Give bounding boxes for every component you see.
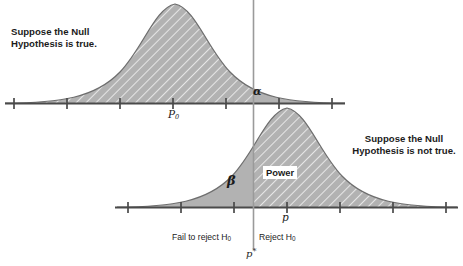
alternative-mean-label: p	[282, 211, 289, 223]
null-false-annotation: Suppose the Null Hypothesis is not true.	[350, 133, 458, 156]
null-true-line2: Hypothesis is true.	[11, 38, 97, 49]
null-curve-hatched-area	[5, 4, 345, 103]
power-diagram-figure: Suppose the Null Hypothesis is true. Sup…	[0, 0, 463, 266]
fail-to-reject-label: Fail to reject H0	[172, 232, 231, 243]
null-true-annotation: Suppose the Null Hypothesis is true.	[11, 26, 97, 49]
null-distribution-curve	[5, 4, 345, 103]
beta-symbol: β	[227, 173, 236, 188]
reject-label: Reject H0	[259, 232, 296, 243]
threshold-superscript: *	[252, 247, 256, 256]
reject-subscript: 0	[292, 235, 296, 242]
power-region-area	[117, 108, 457, 207]
null-mean-label: P0	[168, 108, 179, 121]
fail-to-reject-text: Fail to reject H	[172, 232, 227, 242]
null-mean-subscript: 0	[175, 113, 179, 121]
alpha-symbol: α	[253, 85, 261, 98]
null-false-line1: Suppose the Null	[365, 133, 443, 144]
alternative-distribution-curve	[117, 108, 457, 207]
reject-text: Reject H	[259, 232, 292, 242]
power-label: Power	[263, 166, 297, 179]
null-false-line2: Hypothesis is not true.	[352, 145, 455, 156]
threshold-label: p*	[246, 247, 256, 259]
fail-to-reject-subscript: 0	[227, 235, 231, 242]
null-true-line1: Suppose the Null	[11, 26, 89, 37]
